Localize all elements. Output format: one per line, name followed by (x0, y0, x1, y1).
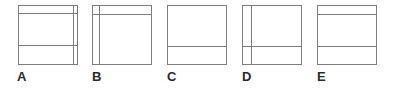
figure-label-a: A (17, 70, 26, 84)
horizontal-divider-line (318, 14, 376, 15)
horizontal-divider-line (93, 14, 151, 15)
figure-group-d: D (242, 0, 302, 94)
figure-group-c: C (167, 0, 227, 94)
square-outline-e (317, 5, 377, 65)
square-outline-a (18, 5, 78, 65)
figure-label-b: B (92, 70, 101, 84)
horizontal-divider-line (19, 45, 77, 46)
square-outline-b (92, 5, 152, 65)
figure-comparison-panel: ABCDE (0, 0, 397, 94)
vertical-divider-line (99, 6, 100, 64)
figure-label-d: D (242, 70, 251, 84)
vertical-divider-line (251, 6, 252, 64)
figure-label-e: E (317, 70, 326, 84)
figure-group-e: E (317, 0, 377, 94)
square-outline-c (167, 5, 227, 65)
horizontal-divider-line (168, 46, 226, 47)
vertical-divider-line (73, 6, 74, 64)
square-outline-d (242, 5, 302, 65)
horizontal-divider-line (19, 13, 77, 14)
figure-label-c: C (167, 70, 176, 84)
figure-group-b: B (92, 0, 152, 94)
horizontal-divider-line (318, 46, 376, 47)
figure-group-a: A (18, 0, 78, 94)
